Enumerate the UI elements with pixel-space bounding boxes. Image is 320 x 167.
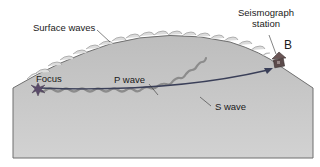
seismograph-station-label: Seismograph station <box>236 7 296 29</box>
seismograph-station-icon <box>272 52 286 68</box>
surface-waves-leader <box>97 30 110 42</box>
station-id-label: B <box>284 40 292 51</box>
surface-waves-label: Surface waves <box>33 22 95 33</box>
seismograph-label-line2: station <box>236 18 296 29</box>
s-wave-label: S wave <box>215 101 246 112</box>
seismograph-label-line1: Seismograph <box>236 7 296 18</box>
seismic-wave-diagram: Surface waves Seismograph station B Focu… <box>0 0 320 167</box>
ground-cross-section <box>13 35 313 158</box>
focus-label: Focus <box>36 73 62 84</box>
p-wave-label: P wave <box>114 74 145 85</box>
station-leader <box>269 35 276 54</box>
